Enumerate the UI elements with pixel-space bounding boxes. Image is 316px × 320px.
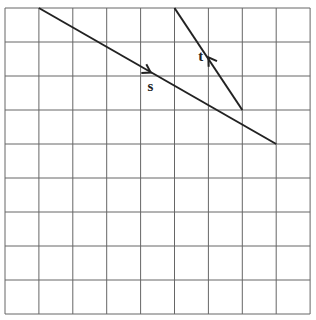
vector-t-label: t — [198, 48, 203, 64]
grid-lines — [5, 8, 310, 314]
grid-diagram: st — [0, 0, 316, 320]
vector-s-label: s — [147, 78, 153, 94]
